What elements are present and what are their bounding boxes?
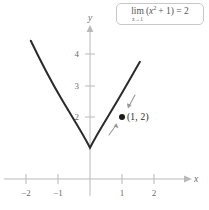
x-tick-label-2: 2 bbox=[152, 188, 157, 198]
limit-exponent: 2 bbox=[153, 4, 156, 11]
limit-graph-figure: −2 −1 1 2 2 3 4 x y (1, 2) lim x→1 ( bbox=[0, 0, 209, 210]
limit-suffix: + 1) = 2 bbox=[158, 6, 189, 16]
x-tick-label-1: 1 bbox=[120, 188, 125, 198]
parabola-curve bbox=[31, 41, 140, 148]
limit-operator-text: lim bbox=[131, 7, 144, 17]
y-tick-label-4: 4 bbox=[75, 49, 80, 59]
y-axis-arrowhead bbox=[87, 25, 94, 32]
y-axis-label: y bbox=[87, 13, 93, 23]
point-label-1-2: (1, 2) bbox=[127, 112, 149, 122]
x-tick-label-minus1: −1 bbox=[53, 188, 63, 198]
point-marker-1-2 bbox=[119, 114, 125, 120]
x-axis-label: x bbox=[193, 174, 199, 184]
limit-subscript-text: x→1 bbox=[132, 17, 143, 22]
x-axis-arrowhead bbox=[184, 176, 192, 183]
y-tick-label-3: 3 bbox=[75, 81, 80, 91]
limit-operator-stack: lim x→1 bbox=[131, 7, 144, 22]
limit-expression-box: lim x→1 (x2 + 1) = 2 bbox=[116, 3, 204, 25]
approach-arrow-right-head bbox=[127, 103, 132, 108]
x-tick-label-minus2: −2 bbox=[21, 188, 31, 198]
parabola-plot: −2 −1 1 2 2 3 4 x y bbox=[0, 0, 209, 210]
limit-expression-body: (x2 + 1) = 2 bbox=[146, 6, 189, 16]
limit-expression: lim x→1 (x2 + 1) = 2 bbox=[131, 6, 189, 22]
